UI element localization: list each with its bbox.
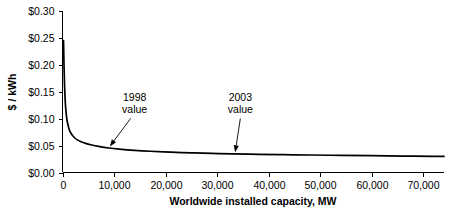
- cost-vs-capacity-chart: $0.00$0.05$0.10$0.15$0.20$0.25$0.30 010,…: [0, 0, 449, 213]
- annotation-1998-line2: value: [122, 103, 147, 115]
- y-tick-label: $0.00: [28, 167, 54, 179]
- x-tick-label: 60,000: [356, 179, 388, 191]
- y-tick-label: $0.20: [28, 59, 54, 71]
- annotation-1998-line1: 1998: [123, 91, 147, 103]
- y-tick-label: $0.30: [28, 5, 54, 17]
- x-tick-label: 70,000: [407, 179, 439, 191]
- chart-container: $0.00$0.05$0.10$0.15$0.20$0.25$0.30 010,…: [0, 0, 449, 213]
- y-tick-label: $0.15: [28, 86, 54, 98]
- x-axis-title: Worldwide installed capacity, MW: [169, 195, 336, 207]
- x-tick-label: 0: [61, 179, 67, 191]
- annotation-2003-line2: value: [228, 103, 253, 115]
- x-tick-label: 20,000: [150, 179, 182, 191]
- x-tick-label: 40,000: [253, 179, 285, 191]
- y-tick-label: $0.05: [28, 140, 54, 152]
- y-tick-label: $0.10: [28, 113, 54, 125]
- x-tick-label: 50,000: [304, 179, 336, 191]
- x-tick-label: 10,000: [98, 179, 130, 191]
- x-tick-label: 30,000: [201, 179, 233, 191]
- annotation-2003-line1: 2003: [229, 91, 253, 103]
- y-axis-title: $ / kWh: [6, 74, 18, 111]
- y-tick-label: $0.25: [28, 32, 54, 44]
